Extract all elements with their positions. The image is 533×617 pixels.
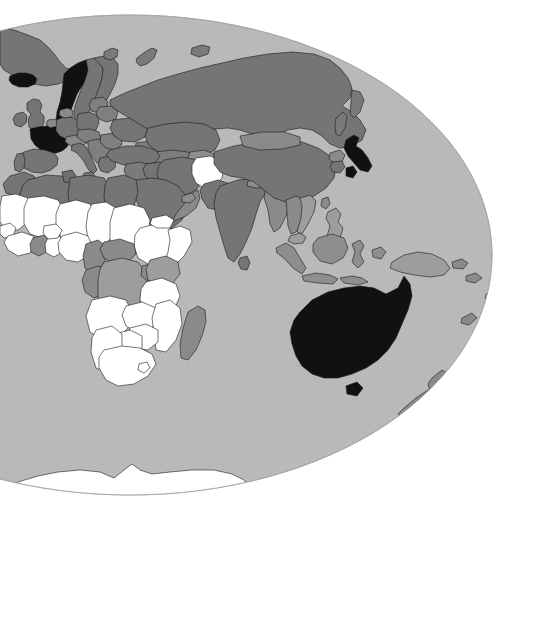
world-map-figure	[0, 0, 533, 617]
country-denmark	[59, 108, 73, 118]
world-map-svg	[0, 0, 533, 617]
country-mongolia	[240, 132, 300, 150]
